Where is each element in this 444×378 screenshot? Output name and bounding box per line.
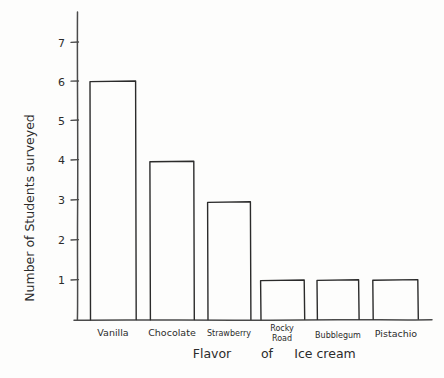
x-label-vanilla: Vanilla [97,327,128,338]
x-label-rocky-road-line1: Rocky [270,324,294,333]
x-label-strawberry: Strawberry [207,329,251,338]
x-label-rocky-road-line2: Road [272,334,292,343]
bar-bubblegum[interactable] [317,280,359,320]
axis-group [74,12,432,320]
x-label-bubblegum: Bubblegum [315,331,361,340]
x-axis-line [74,320,432,321]
bar-vanilla[interactable] [90,81,136,320]
x-axis-title-word-2: of [261,346,274,361]
bar-chocolate[interactable] [150,161,194,320]
y-tick-label-5: 5 [58,115,65,128]
bars-group [90,81,418,320]
x-label-pistachio: Pistachio [375,328,418,339]
y-tick-label-4: 4 [58,154,65,167]
y-tick-label-6: 6 [58,76,65,89]
x-axis-title-word-1: Flavor [193,346,232,361]
y-tick-label-1: 1 [58,274,65,287]
y-tick-label-2: 2 [58,234,65,247]
x-category-labels: Vanilla Chocolate Strawberry Rocky Road … [97,324,417,343]
x-axis-title-group: Flavor of Ice cream [193,346,356,361]
bar-pistachio[interactable] [373,280,419,320]
x-axis-title-word-3: Ice cream [294,346,356,361]
bar-strawberry[interactable] [208,202,251,320]
y-axis-title: Number of Students surveyed [22,114,37,302]
chart-canvas: 7 6 5 4 3 2 1 Vanilla Chocolat [0,0,444,378]
y-axis-title-group: Number of Students surveyed [22,114,37,302]
hand-drawn-bar-chart: 7 6 5 4 3 2 1 Vanilla Chocolat [0,0,444,378]
y-tick-label-7: 7 [58,37,65,50]
bar-rocky-road[interactable] [261,280,305,320]
x-label-chocolate: Chocolate [148,327,196,338]
y-tick-labels: 7 6 5 4 3 2 1 [58,37,65,288]
y-tick-label-3: 3 [58,194,65,207]
